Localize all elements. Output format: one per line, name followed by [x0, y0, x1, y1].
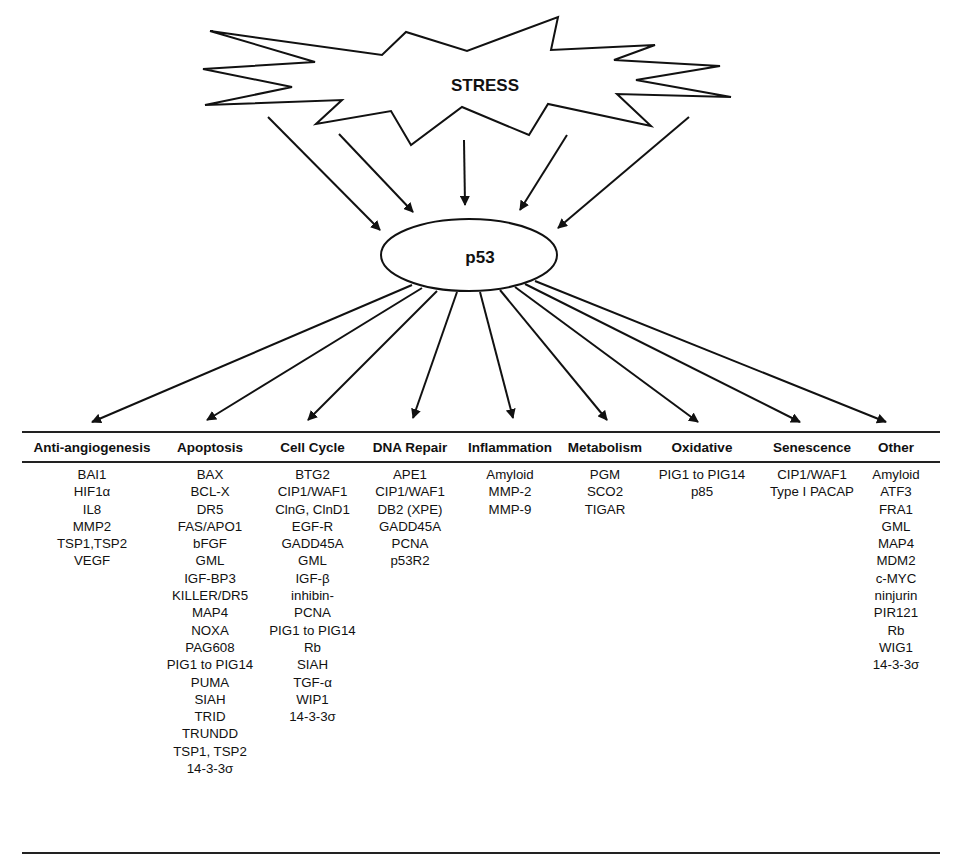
gene-item: c-MYC: [862, 570, 930, 587]
table-top-rule: [22, 431, 940, 433]
gene-item: 14-3-3σ: [862, 656, 930, 673]
gene-item: SIAH: [155, 691, 265, 708]
gene-item: NOXA: [155, 622, 265, 639]
gene-item: SCO2: [560, 483, 650, 500]
pathway-diagram: [0, 0, 960, 868]
gene-item: WIG1: [862, 639, 930, 656]
gene-item: ATF3: [862, 483, 930, 500]
gene-item: 14-3-3σ: [155, 760, 265, 777]
gene-item: DR5: [155, 501, 265, 518]
column-header: DNA Repair: [360, 436, 460, 460]
gene-item: BTG2: [255, 466, 370, 483]
column-header: Senescence: [760, 436, 864, 460]
gene-item: TSP1, TSP2: [155, 743, 265, 760]
gene-list: PIG1 to PIG14 p85: [652, 466, 752, 501]
gene-item: MAP4: [155, 604, 265, 621]
gene-item: MMP2: [27, 518, 157, 535]
gene-list: BAI1 HIF1α IL8 MMP2 TSP1,TSP2 VEGF: [27, 466, 157, 570]
gene-item: GML: [862, 518, 930, 535]
gene-item: CIP1/WAF1: [255, 483, 370, 500]
gene-item: CIP1/WAF1: [360, 483, 460, 500]
column-header: Cell Cycle: [255, 436, 370, 460]
column-header: Oxidative: [652, 436, 752, 460]
gene-item: BAI1: [27, 466, 157, 483]
gene-item: CIP1/WAF1: [760, 466, 864, 483]
column-apoptosis: Apoptosis BAX BCL-X DR5 FAS/APO1 bFGF GM…: [155, 436, 265, 777]
gene-item: TRID: [155, 708, 265, 725]
gene-list: APE1 CIP1/WAF1 DB2 (XPE) GADD45A PCNA p5…: [360, 466, 460, 570]
column-inflammation: Inflammation Amyloid MMP-2 MMP-9: [462, 436, 558, 518]
column-header: Apoptosis: [155, 436, 265, 460]
gene-item: PIG1 to PIG14: [155, 656, 265, 673]
stress-label: STRESS: [425, 76, 545, 96]
gene-item: SIAH: [255, 656, 370, 673]
gene-item: PUMA: [155, 674, 265, 691]
gene-item: VEGF: [27, 552, 157, 569]
gene-item: MDM2: [862, 552, 930, 569]
gene-item: Type I PACAP: [760, 483, 864, 500]
column-metabolism: Metabolism PGM SCO2 TIGAR: [560, 436, 650, 518]
gene-item: IGF-BP3: [155, 570, 265, 587]
gene-item: MAP4: [862, 535, 930, 552]
gene-item: PCNA: [360, 535, 460, 552]
gene-item: BAX: [155, 466, 265, 483]
gene-item: FRA1: [862, 501, 930, 518]
gene-list: BAX BCL-X DR5 FAS/APO1 bFGF GML IGF-BP3 …: [155, 466, 265, 777]
gene-item: GADD45A: [255, 535, 370, 552]
gene-item: MMP-2: [462, 483, 558, 500]
column-dna-repair: DNA Repair APE1 CIP1/WAF1 DB2 (XPE) GADD…: [360, 436, 460, 570]
gene-list: Amyloid ATF3 FRA1 GML MAP4 MDM2 c-MYC ni…: [862, 466, 930, 674]
column-header: Metabolism: [560, 436, 650, 460]
gene-item: PCNA: [255, 604, 370, 621]
gene-list: Amyloid MMP-2 MMP-9: [462, 466, 558, 518]
gene-item: HIF1α: [27, 483, 157, 500]
gene-list: CIP1/WAF1 Type I PACAP: [760, 466, 864, 501]
gene-item: KILLER/DR5: [155, 587, 265, 604]
gene-item: Rb: [862, 622, 930, 639]
gene-item: TRUNDD: [155, 725, 265, 742]
gene-item: PIR121: [862, 604, 930, 621]
column-anti-angiogenesis: Anti-angiogenesis BAI1 HIF1α IL8 MMP2 TS…: [27, 436, 157, 570]
gene-item: GADD45A: [360, 518, 460, 535]
gene-item: FAS/APO1: [155, 518, 265, 535]
gene-item: 14-3-3σ: [255, 708, 370, 725]
gene-item: p85: [652, 483, 752, 500]
gene-item: inhibin-: [255, 587, 370, 604]
column-header: Other: [862, 436, 930, 460]
gene-item: PGM: [560, 466, 650, 483]
column-header: Anti-angiogenesis: [27, 436, 157, 460]
gene-item: WIP1: [255, 691, 370, 708]
gene-item: Amyloid: [462, 466, 558, 483]
gene-item: GML: [155, 552, 265, 569]
column-cell-cycle: Cell Cycle BTG2 CIP1/WAF1 ClnG, ClnD1 EG…: [255, 436, 370, 725]
gene-item: APE1: [360, 466, 460, 483]
gene-item: Amyloid: [862, 466, 930, 483]
gene-item: ClnG, ClnD1: [255, 501, 370, 518]
gene-item: BCL-X: [155, 483, 265, 500]
stress-to-p53-arrows: [268, 117, 689, 230]
table-bottom-rule: [22, 852, 940, 854]
column-senescence: Senescence CIP1/WAF1 Type I PACAP: [760, 436, 864, 501]
column-other: Other Amyloid ATF3 FRA1 GML MAP4 MDM2 c-…: [862, 436, 930, 674]
gene-item: MMP-9: [462, 501, 558, 518]
gene-item: TGF-α: [255, 674, 370, 691]
gene-item: GML: [255, 552, 370, 569]
gene-item: IGF-β: [255, 570, 370, 587]
gene-list: PGM SCO2 TIGAR: [560, 466, 650, 518]
gene-list: BTG2 CIP1/WAF1 ClnG, ClnD1 EGF-R GADD45A…: [255, 466, 370, 725]
p53-to-category-arrows: [92, 281, 886, 422]
gene-item: p53R2: [360, 552, 460, 569]
gene-item: DB2 (XPE): [360, 501, 460, 518]
gene-item: PIG1 to PIG14: [652, 466, 752, 483]
p53-label: p53: [430, 248, 530, 268]
gene-item: PIG1 to PIG14: [255, 622, 370, 639]
gene-item: TSP1,TSP2: [27, 535, 157, 552]
column-oxidative: Oxidative PIG1 to PIG14 p85: [652, 436, 752, 501]
gene-item: Rb: [255, 639, 370, 656]
gene-item: IL8: [27, 501, 157, 518]
gene-item: PAG608: [155, 639, 265, 656]
column-header: Inflammation: [462, 436, 558, 460]
gene-item: EGF-R: [255, 518, 370, 535]
gene-item: TIGAR: [560, 501, 650, 518]
gene-item: ninjurin: [862, 587, 930, 604]
